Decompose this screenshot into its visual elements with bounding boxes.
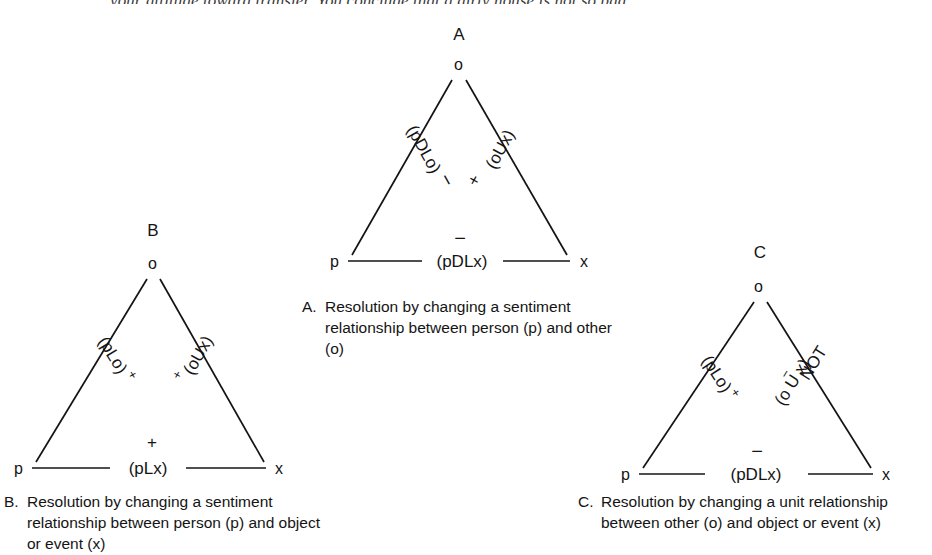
panel-c-right-vertex-label: x xyxy=(882,466,890,483)
panel-c-right-edge-label-line2: (o U x) xyxy=(771,355,814,408)
caption-b-text: Resolution by changing a sentiment relat… xyxy=(27,491,334,554)
caption-panel-a: A. Resolution by changing a sentiment re… xyxy=(302,296,622,359)
panel-b-bottom-edge-label: (pLx) xyxy=(129,459,168,478)
panel-c-left-edge xyxy=(643,302,754,468)
panel-c-bottom-edge-label: (pDLx) xyxy=(730,465,781,484)
figure-canvas: A o (pDLo) − (oUx) + (pDLx) − p x B o (p… xyxy=(0,0,932,555)
caption-panel-b: B. Resolution by changing a sentiment re… xyxy=(4,491,334,554)
caption-panel-c: C. Resolution by changing a unit relatio… xyxy=(578,491,928,533)
panel-a-right-edge-sign: + xyxy=(463,171,484,189)
panel-b-bottom-edge-sign: + xyxy=(147,433,157,452)
caption-b-letter: B. xyxy=(4,491,27,512)
panel-b-letter: B xyxy=(147,221,158,240)
panel-a-left-edge-sign: − xyxy=(435,169,460,190)
panel-c-bottom-edge-sign: − xyxy=(751,440,763,462)
panel-b-left-edge xyxy=(36,279,147,462)
panel-a-bottom-edge-label: (pDLx) xyxy=(436,252,487,271)
caption-c-letter: C. xyxy=(578,491,601,512)
panel-c-apex-label: o xyxy=(754,278,763,295)
panel-a-right-edge xyxy=(466,80,567,255)
panel-a-apex-label: o xyxy=(454,56,463,73)
triangle-panel-b: B o (pLo) + (oUx) + (pLx) + p x xyxy=(14,221,283,478)
panel-c-left-vertex-label: p xyxy=(621,466,630,483)
panel-a-right-edge-label: (oUx) xyxy=(482,127,519,173)
panel-b-right-vertex-label: x xyxy=(275,460,283,477)
panel-c-letter: C xyxy=(754,243,766,262)
triangle-panel-c: C o (pLo) + NOT (o U x) − (pDLx) − p x xyxy=(621,243,890,484)
panel-a-bottom-edge-sign: − xyxy=(454,227,466,249)
triangle-panel-a: A o (pDLo) − (oUx) + (pDLx) − p x xyxy=(330,25,588,271)
panel-b-apex-label: o xyxy=(148,255,157,272)
caption-a-letter: A. xyxy=(302,296,325,317)
panel-b-right-edge-label: (oUx) xyxy=(180,333,217,378)
panel-a-right-vertex-label: x xyxy=(580,253,588,270)
panel-a-left-edge-label: (pDLo) xyxy=(403,122,445,177)
caption-a-text: Resolution by changing a sentiment relat… xyxy=(325,296,622,359)
caption-c-text: Resolution by changing a unit relationsh… xyxy=(601,491,928,533)
panel-b-left-vertex-label: p xyxy=(14,460,23,477)
panel-a-letter: A xyxy=(453,25,465,44)
panel-c-left-edge-label: (pLo) xyxy=(698,352,736,396)
panel-a-left-vertex-label: p xyxy=(330,253,339,270)
